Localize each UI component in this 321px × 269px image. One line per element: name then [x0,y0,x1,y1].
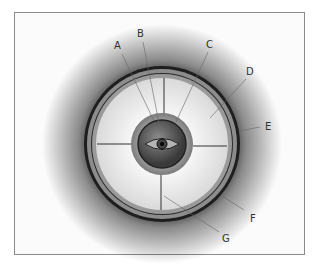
label-d: D [246,66,254,77]
label-c: C [206,39,213,50]
label-f: F [250,213,256,224]
label-e: E [265,121,271,132]
pupil [160,142,164,146]
eye-ring-diagram: A B C D E F G [0,0,321,269]
label-g: G [222,233,230,244]
label-b: B [137,28,144,39]
label-a: A [114,40,121,51]
